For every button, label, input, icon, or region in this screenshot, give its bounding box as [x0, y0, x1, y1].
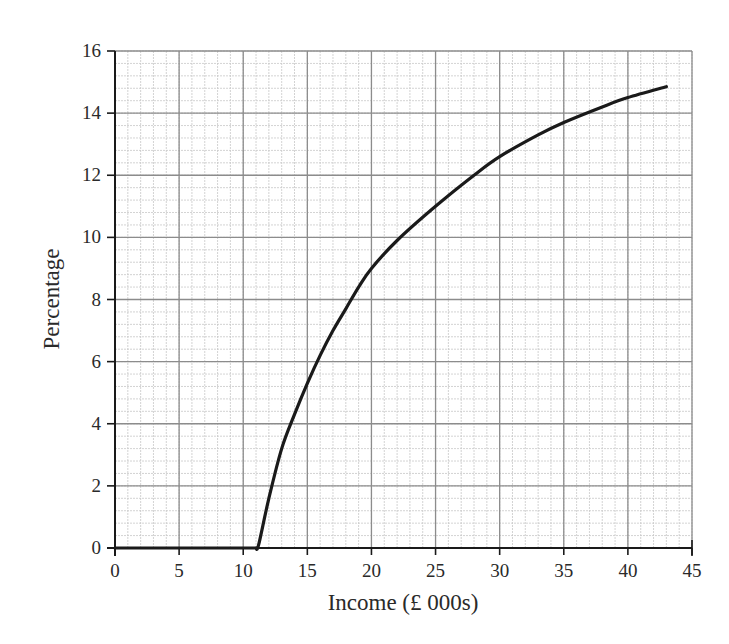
y-tick-label: 16: [82, 40, 101, 61]
percentage-curve: [115, 87, 666, 550]
y-tick-label: 10: [82, 226, 101, 247]
x-tick-label: 5: [174, 560, 184, 581]
y-tick-label: 0: [92, 537, 102, 558]
x-tick-label: 10: [234, 560, 253, 581]
x-axis-ticks: 051015202530354045: [110, 548, 701, 581]
x-tick-label: 25: [426, 560, 445, 581]
x-tick-label: 30: [490, 560, 509, 581]
x-tick-label: 0: [110, 560, 120, 581]
y-tick-label: 4: [92, 413, 102, 434]
x-tick-label: 20: [362, 560, 381, 581]
x-tick-label: 40: [618, 560, 637, 581]
data-series: [115, 87, 666, 550]
x-tick-label: 35: [554, 560, 573, 581]
y-tick-label: 12: [82, 164, 101, 185]
y-tick-label: 6: [92, 351, 102, 372]
y-axis-ticks: 0246810121416: [82, 40, 115, 558]
axes: [107, 51, 692, 556]
x-tick-label: 15: [298, 560, 317, 581]
percentage-vs-income-chart: 051015202530354045 0246810121416 Income …: [0, 0, 729, 644]
y-tick-label: 2: [92, 475, 102, 496]
y-tick-label: 14: [82, 102, 102, 123]
x-tick-label: 45: [683, 560, 702, 581]
y-axis-title: Percentage: [39, 249, 64, 350]
y-tick-label: 8: [92, 289, 102, 310]
x-axis-title: Income (£ 000s): [328, 590, 479, 615]
